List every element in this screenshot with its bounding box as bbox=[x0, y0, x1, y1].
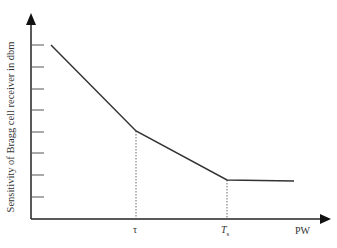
tau-label: τ bbox=[133, 224, 137, 235]
ts-label: Ts bbox=[221, 224, 229, 238]
y-axis-arrow-icon bbox=[26, 13, 36, 25]
y-axis-label: Sensitivity of Bragg cell receiver in db… bbox=[5, 17, 19, 237]
sensitivity-line bbox=[51, 45, 294, 181]
y-ticks bbox=[31, 45, 44, 197]
chart bbox=[0, 0, 337, 248]
ts-sub: s bbox=[227, 230, 230, 238]
x-axis-label: PW bbox=[295, 225, 310, 236]
x-axis-arrow-icon bbox=[320, 214, 331, 224]
